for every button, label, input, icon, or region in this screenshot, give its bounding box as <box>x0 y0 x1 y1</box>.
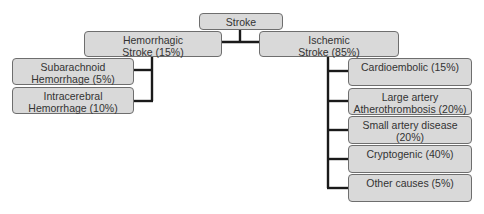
node-subarachnoid-hemorrhage: Subarachnoid Hemorrhage (5%) <box>12 58 134 85</box>
node-intracerebral-hemorrhage-label: Intracerebral Hemorrhage (10%) <box>28 90 117 114</box>
node-stroke: Stroke <box>199 13 283 30</box>
node-cardioembolic: Cardioembolic (15%) <box>348 58 472 86</box>
node-other-causes: Other causes (5%) <box>348 174 472 202</box>
node-hemorrhagic-stroke-label: Hemorrhagic Stroke (15%) <box>122 34 183 58</box>
node-cardioembolic-label: Cardioembolic (15%) <box>361 61 459 73</box>
node-cryptogenic-label: Cryptogenic (40%) <box>367 148 454 160</box>
node-hemorrhagic-stroke: Hemorrhagic Stroke (15%) <box>84 31 222 57</box>
node-small-artery-disease-label: Small artery disease (20%) <box>349 119 471 143</box>
node-large-artery-atherothrombosis-label: Large artery Atherothrombosis (20%) <box>353 91 466 115</box>
node-cryptogenic: Cryptogenic (40%) <box>348 145 472 173</box>
node-other-causes-label: Other causes (5%) <box>366 177 454 189</box>
node-small-artery-disease: Small artery disease (20%) <box>348 116 472 144</box>
node-ischemic-stroke-label: Ischemic Stroke (85%) <box>298 34 359 58</box>
node-intracerebral-hemorrhage: Intracerebral Hemorrhage (10%) <box>12 87 134 114</box>
node-large-artery-atherothrombosis: Large artery Atherothrombosis (20%) <box>348 88 472 115</box>
node-stroke-label: Stroke <box>226 16 256 28</box>
node-subarachnoid-hemorrhage-label: Subarachnoid Hemorrhage (5%) <box>31 61 114 85</box>
node-ischemic-stroke: Ischemic Stroke (85%) <box>259 31 399 57</box>
